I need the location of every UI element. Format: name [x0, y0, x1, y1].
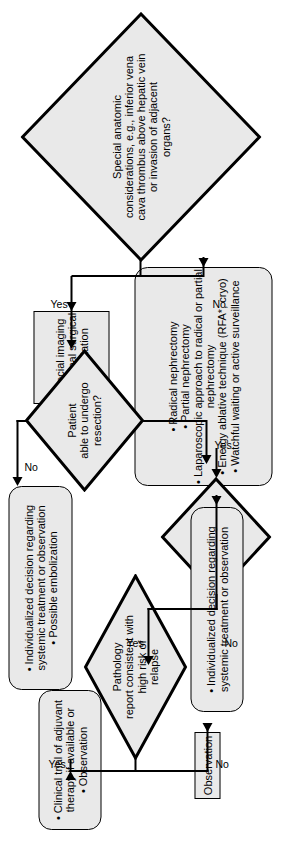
node-patient-able-label: Patient able to undergo resection?	[66, 349, 103, 492]
edge-imaging-to-patient-arrow	[66, 340, 76, 349]
node-individualized-left-list: Individualized decision regarding system…	[22, 505, 59, 671]
flowchart-rotated-container: Special anatomic considerations, e.g., i…	[0, 0, 281, 860]
edge-resection-yes	[147, 608, 149, 657]
edge-anatomic-no-arrow	[198, 258, 208, 267]
edge-label-pathology-no: No	[215, 759, 228, 770]
edge-label-pathology-yes: Yes	[48, 759, 65, 770]
flowchart-canvas: Special anatomic considerations, e.g., i…	[0, 0, 281, 860]
list-item: Radical nephrectomy	[166, 269, 178, 484]
edge-treatment-to-resection-arrow	[211, 469, 221, 478]
list-item: Watchful waiting or active surveillance	[228, 269, 240, 484]
node-individualized-left: Individualized decision regarding system…	[8, 486, 72, 690]
edge-patient-yes-horiz	[205, 420, 207, 456]
edge-resection-no-arrow	[211, 496, 221, 505]
node-patient-able: Patient able to undergo resection?	[24, 349, 144, 492]
list-item: Possible embolization	[46, 505, 58, 671]
list-item: Partial nephrectomy	[178, 269, 190, 484]
edge-treatment-to-resection	[215, 448, 217, 470]
node-pathology-report-label: Pathology report consistent with high ri…	[110, 574, 159, 760]
edge-label-resection-yes: Yes	[126, 638, 143, 649]
edge-resection-split	[147, 608, 217, 610]
list-item: Observation	[76, 700, 88, 820]
node-treatment-options: Radical nephrectomy Partial nephrectomy …	[134, 267, 272, 486]
edge-resection-yes-arrow	[143, 656, 153, 665]
edge-label-patient-no: No	[24, 462, 37, 473]
edge-anatomic-split	[71, 275, 203, 277]
node-treatment-options-list: Radical nephrectomy Partial nephrectomy …	[166, 269, 240, 484]
edge-patient-no-arrow	[12, 477, 22, 486]
node-special-anatomic: Special anatomic considerations, e.g., i…	[20, 12, 261, 262]
edge-pathology-no-arrow	[202, 723, 212, 732]
list-item-continuation: systemic treatment or observation	[217, 526, 229, 692]
list-item: Laparoscopic approach to radical or part…	[191, 269, 203, 484]
list-item: Individualized decision regarding	[22, 505, 34, 671]
edge-imaging-to-patient	[70, 303, 72, 341]
edge-patient-yes-arrow	[201, 455, 211, 464]
edge-anatomic-yes	[70, 276, 72, 303]
edge-label-anatomic-no: No	[212, 299, 225, 310]
edge-pathology-yes-arrow	[65, 771, 75, 780]
edge-resection-no	[215, 495, 217, 610]
edge-label-anatomic-yes: Yes	[50, 299, 67, 310]
edge-pathology-split	[69, 770, 207, 772]
edge-label-resection-no: No	[224, 638, 237, 649]
node-special-anatomic-label: Special anatomic considerations, e.g., i…	[110, 12, 172, 262]
edge-patient-yes-vert	[142, 420, 206, 422]
list-item-continuation: systemic treatment or observation	[34, 505, 46, 671]
edge-patient-no-horiz	[16, 420, 18, 478]
